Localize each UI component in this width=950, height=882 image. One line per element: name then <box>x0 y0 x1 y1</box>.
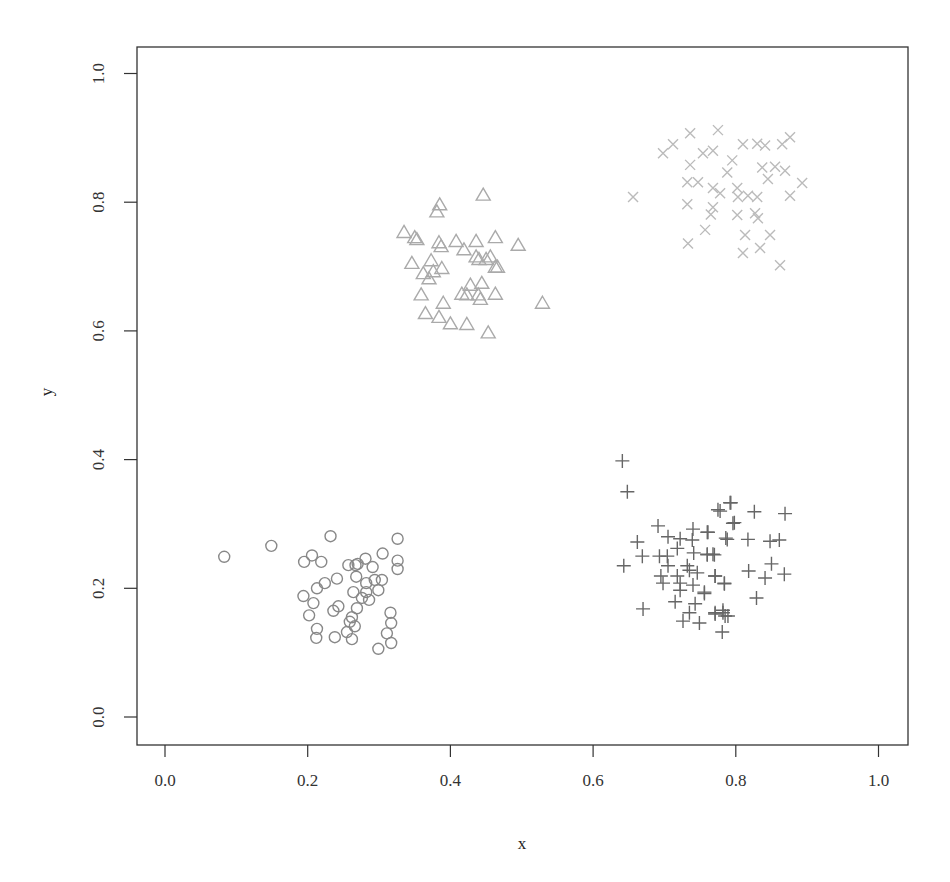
x-marker <box>706 209 716 219</box>
x-tick-label: 0.4 <box>440 771 462 790</box>
circle-marker <box>304 610 315 621</box>
triangle-marker <box>469 234 483 246</box>
plus-marker <box>727 516 741 530</box>
plus-marker <box>690 566 704 580</box>
triangle-marker <box>436 296 450 308</box>
plus-marker <box>715 625 729 639</box>
circle-marker <box>392 533 403 544</box>
x-tick-label: 1.0 <box>868 771 889 790</box>
plus-marker <box>654 569 668 583</box>
plus-marker <box>701 525 715 539</box>
plus-marker <box>682 606 696 620</box>
plus-marker <box>635 549 649 563</box>
x-marker <box>743 191 753 201</box>
plus-marker <box>742 564 756 578</box>
plus-marker <box>656 576 670 590</box>
plus-marker <box>711 503 725 517</box>
x-marker <box>628 192 638 202</box>
x-marker <box>685 128 695 138</box>
x-marker <box>668 139 678 149</box>
plus-marker <box>763 534 777 548</box>
circle-marker <box>377 548 388 559</box>
x-marker <box>708 202 718 212</box>
plus-marker <box>777 567 791 581</box>
plus-marker <box>724 496 738 510</box>
plus-marker <box>741 532 755 546</box>
x-marker <box>683 238 693 248</box>
circle-marker <box>266 540 277 551</box>
triangle-marker <box>424 254 438 266</box>
triangle-marker <box>535 296 549 308</box>
x-marker <box>738 248 748 258</box>
plus-marker <box>686 522 700 536</box>
x-marker <box>713 125 723 135</box>
triangle-marker <box>475 276 489 288</box>
plus-marker <box>630 535 644 549</box>
x-marker <box>708 183 718 193</box>
x-tick-label: 0.6 <box>582 771 603 790</box>
plus-marker <box>670 541 684 555</box>
y-tick-label: 1.0 <box>89 63 108 84</box>
circle-marker <box>219 551 230 562</box>
plus-marker <box>697 585 711 599</box>
x-marker <box>785 132 795 142</box>
scatter-chart: 0.00.20.40.60.81.0 0.00.20.40.60.81.0 x … <box>0 0 950 882</box>
x-marker <box>733 192 743 202</box>
circle-marker <box>392 563 403 574</box>
plus-marker <box>713 504 727 518</box>
plus-marker <box>685 533 699 547</box>
plus-marker <box>686 578 700 592</box>
x-marker <box>722 168 732 178</box>
plus-marker <box>720 532 734 546</box>
plus-marker <box>651 519 665 533</box>
plus-marker <box>706 547 720 561</box>
x-marker <box>682 199 692 209</box>
circle-marker <box>316 556 327 567</box>
plus-marker <box>747 505 761 519</box>
x-marker <box>715 188 725 198</box>
circle-marker <box>386 637 397 648</box>
circle-marker <box>299 556 310 567</box>
plot-frame <box>137 47 908 745</box>
x-marker <box>775 260 785 270</box>
circle-marker <box>319 578 330 589</box>
plus-marker <box>687 546 701 560</box>
triangle-marker <box>418 307 432 319</box>
x-marker <box>727 155 737 165</box>
x-marker <box>740 230 750 240</box>
x-tick-label: 0.0 <box>154 771 175 790</box>
x-marker <box>732 183 742 193</box>
plus-marker <box>719 531 733 545</box>
plus-marker <box>617 559 631 573</box>
plus-marker <box>717 576 731 590</box>
y-tick-label: 0.6 <box>89 320 108 341</box>
triangle-marker <box>432 310 446 322</box>
triangle-marker <box>511 238 525 250</box>
plus-marker <box>673 532 687 546</box>
plus-marker <box>660 549 674 563</box>
x-tick-label: 0.8 <box>725 771 746 790</box>
plus-marker <box>688 597 702 611</box>
x-marker <box>757 162 767 172</box>
series-cluster-triangles <box>397 188 549 338</box>
triangle-marker <box>457 243 471 255</box>
y-tick-label: 0.4 <box>89 448 108 470</box>
triangle-marker <box>449 234 463 246</box>
x-axis-title: x <box>518 834 527 853</box>
x-marker <box>698 148 708 158</box>
triangle-marker <box>414 288 428 300</box>
plus-marker <box>708 569 722 583</box>
x-marker <box>682 177 692 187</box>
circle-marker <box>311 583 322 594</box>
circle-marker <box>329 632 340 643</box>
triangle-marker <box>432 236 446 248</box>
x-marker <box>780 166 790 176</box>
x-marker <box>752 192 762 202</box>
circle-marker <box>331 573 342 584</box>
plus-marker <box>636 602 650 616</box>
plus-marker <box>670 569 684 583</box>
circle-marker <box>376 574 387 585</box>
x-marker <box>738 139 748 149</box>
y-tick-label: 0.2 <box>89 578 108 599</box>
x-marker <box>785 191 795 201</box>
